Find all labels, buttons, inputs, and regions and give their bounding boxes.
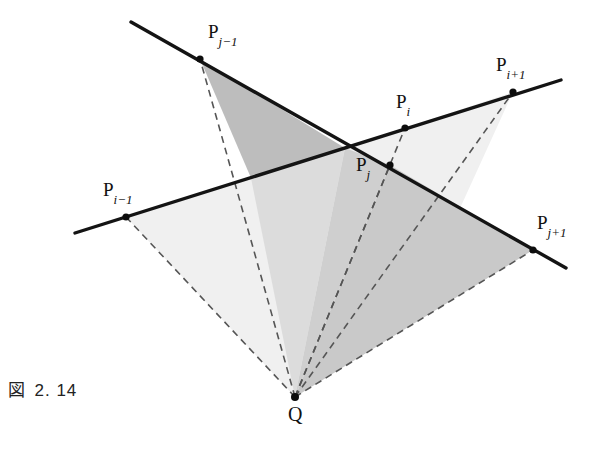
label-p-j-minus-1: Pj−1 [208, 22, 237, 45]
dot-p-j-minus-1 [196, 55, 203, 62]
caption-number: 2. 14 [35, 381, 78, 400]
label-p-i-minus-1-base: P [103, 179, 114, 200]
dot-p-i-minus-1 [122, 213, 129, 220]
dot-q [291, 393, 299, 401]
dot-p-i [401, 124, 408, 131]
dot-p-i-plus-1 [509, 88, 516, 95]
caption-symbol: 図 [8, 381, 26, 400]
label-p-i-sub: i [407, 104, 411, 119]
label-p-i: Pi [396, 92, 410, 115]
label-p-j-minus-1-base: P [208, 21, 219, 42]
label-p-j-plus-1-sub: j+1 [548, 225, 567, 240]
figure-caption: 図2. 14 [8, 376, 77, 401]
label-p-j-minus-1-sub: j−1 [219, 34, 238, 49]
label-p-j-base: P [356, 154, 367, 175]
label-p-i-minus-1-sub: i−1 [114, 192, 133, 207]
label-p-i-plus-1: Pi+1 [496, 55, 525, 78]
figure-container: Pj−1 Pi+1 Pi Pj Pi−1 Pj+1 Q 図2. 14 [0, 0, 597, 460]
label-p-j-plus-1-base: P [537, 212, 548, 233]
dot-p-j-plus-1 [529, 246, 536, 253]
label-p-j: Pj [356, 155, 370, 178]
label-p-i-minus-1: Pi−1 [103, 180, 132, 203]
label-p-i-base: P [396, 91, 407, 112]
label-p-j-plus-1: Pj+1 [537, 213, 566, 236]
label-p-j-sub: j [367, 167, 371, 182]
label-p-i-plus-1-base: P [496, 54, 507, 75]
label-q: Q [288, 404, 302, 424]
label-p-i-plus-1-sub: i+1 [507, 67, 526, 82]
dot-p-j [386, 161, 393, 168]
